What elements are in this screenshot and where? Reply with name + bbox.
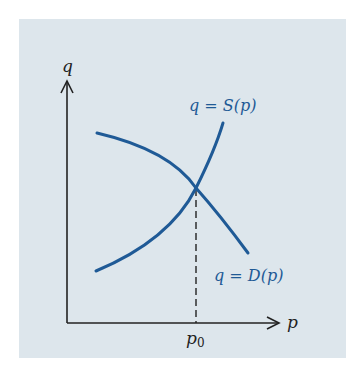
equilibrium-price-base: p: [186, 328, 197, 348]
demand-label: q = D(p): [214, 266, 283, 285]
axes: [61, 81, 279, 329]
x-axis-label: p: [287, 312, 298, 332]
supply-label: q = S(p): [189, 96, 257, 115]
equilibrium-price-label: p0: [186, 328, 205, 350]
y-axis-label: q: [62, 56, 73, 76]
equilibrium-price-sub: 0: [197, 336, 205, 350]
demand-curve: [97, 133, 248, 253]
supply-demand-diagram: q p q = S(p) q = D(p) p0: [0, 0, 363, 376]
